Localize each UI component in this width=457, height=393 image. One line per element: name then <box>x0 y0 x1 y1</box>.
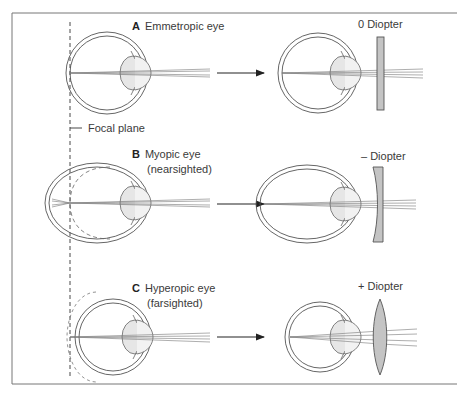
panel-a-left-eye <box>66 32 210 114</box>
panel-a-lens-label: 0 Diopter <box>358 18 403 31</box>
panel-a-letter: A <box>132 20 140 32</box>
panel-b-title-text: Myopic eye <box>145 148 201 160</box>
panel-c-lens-label: + Diopter <box>358 280 403 293</box>
panel-b-right-eye <box>256 165 416 243</box>
flat-lens-icon <box>377 37 384 110</box>
panel-b-letter: B <box>132 148 140 160</box>
panel-c-letter: C <box>132 282 140 294</box>
panel-c-title: CHyperopic eye <box>132 282 215 295</box>
refraction-diagram: AEmmetropic eye 0 Diopter Focal plane BM… <box>0 0 457 393</box>
panel-b-title: BMyopic eye <box>132 148 201 161</box>
panel-a-right-eye <box>278 33 423 113</box>
panel-a-title-text: Emmetropic eye <box>145 20 224 32</box>
concave-lens-icon <box>373 167 383 242</box>
diagram-canvas <box>0 0 457 393</box>
convex-lens-icon <box>373 299 387 375</box>
panel-c-right-eye <box>285 302 417 372</box>
frame-border <box>12 13 457 384</box>
panel-b-lens-label: – Diopter <box>361 150 406 163</box>
panel-c-title-text: Hyperopic eye <box>145 282 215 294</box>
panel-b-subtitle: (nearsighted) <box>147 163 212 176</box>
focal-plane-label: Focal plane <box>88 122 145 135</box>
panel-c-subtitle: (farsighted) <box>147 297 203 310</box>
panel-a-title: AEmmetropic eye <box>132 20 224 33</box>
